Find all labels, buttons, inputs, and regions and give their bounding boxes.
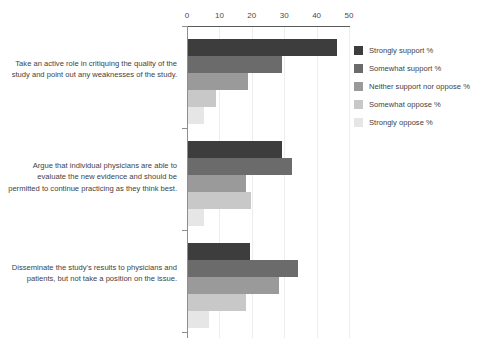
bar bbox=[188, 141, 282, 158]
axis-tick-label: 40 bbox=[312, 11, 321, 20]
gridline bbox=[317, 27, 318, 338]
value-axis-line bbox=[187, 26, 350, 27]
bar bbox=[188, 243, 250, 260]
legend-swatch-icon bbox=[354, 46, 363, 55]
legend-label: Strongly oppose % bbox=[369, 118, 433, 127]
bar bbox=[188, 192, 251, 209]
legend-item[interactable]: Neither support nor oppose % bbox=[354, 77, 470, 95]
category-axis-tick bbox=[182, 230, 187, 231]
legend-item[interactable]: Strongly support % bbox=[354, 41, 470, 59]
bar bbox=[188, 311, 209, 328]
bar bbox=[188, 73, 248, 90]
axis-tick-label: 10 bbox=[215, 11, 224, 20]
bar-chart: 01020304050 Take an active role in criti… bbox=[0, 0, 487, 352]
bar bbox=[188, 39, 337, 56]
bar bbox=[188, 260, 298, 277]
legend-swatch-icon bbox=[354, 118, 363, 127]
legend-label: Somewhat support % bbox=[369, 64, 441, 73]
axis-tick-label: 50 bbox=[345, 11, 354, 20]
bar bbox=[188, 90, 216, 107]
bar bbox=[188, 277, 279, 294]
bar bbox=[188, 175, 246, 192]
bar bbox=[188, 56, 282, 73]
category-label: Take an active role in critiquing the qu… bbox=[5, 58, 177, 81]
category-axis-tick bbox=[182, 128, 187, 129]
bar bbox=[188, 209, 204, 226]
legend-label: Somewhat oppose % bbox=[369, 100, 441, 109]
legend-item[interactable]: Somewhat oppose % bbox=[354, 95, 470, 113]
category-axis-tick bbox=[182, 332, 187, 333]
bar bbox=[188, 107, 204, 124]
bar bbox=[188, 294, 246, 311]
legend-label: Strongly support % bbox=[369, 46, 433, 55]
axis-tick-label: 0 bbox=[185, 11, 189, 20]
category-axis-tick bbox=[182, 26, 187, 27]
category-label: Argue that individual physicians are abl… bbox=[5, 160, 177, 195]
gridline bbox=[284, 27, 285, 338]
category-label: Disseminate the study's results to physi… bbox=[5, 262, 177, 285]
legend-label: Neither support nor oppose % bbox=[369, 82, 470, 91]
gridline bbox=[349, 27, 350, 338]
legend-item[interactable]: Somewhat support % bbox=[354, 59, 470, 77]
bar bbox=[188, 158, 292, 175]
legend-swatch-icon bbox=[354, 64, 363, 73]
legend: Strongly support %Somewhat support %Neit… bbox=[354, 41, 470, 131]
axis-tick-label: 30 bbox=[280, 11, 289, 20]
legend-swatch-icon bbox=[354, 82, 363, 91]
legend-item[interactable]: Strongly oppose % bbox=[354, 113, 470, 131]
axis-tick-label: 20 bbox=[247, 11, 256, 20]
legend-swatch-icon bbox=[354, 100, 363, 109]
